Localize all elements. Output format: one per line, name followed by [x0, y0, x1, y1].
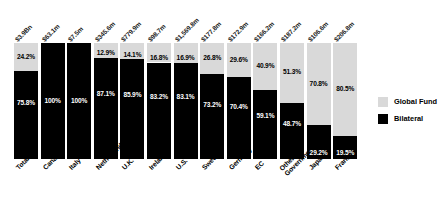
- bar-group: 16.8%83.2%: [147, 43, 171, 159]
- bar-segment-global-fund: 29.6%: [227, 43, 251, 77]
- bar-segment-label: 100%: [44, 98, 60, 105]
- legend-swatch-bilateral: [378, 114, 388, 124]
- bar-group: 12.9%87.1%: [94, 43, 118, 159]
- bar-segment-global-fund: 51.3%: [280, 43, 304, 103]
- bar-segment-bilateral: 87.1%: [94, 58, 118, 159]
- bar-segment-label: 12.9%: [97, 50, 115, 57]
- bar-segment-label: 73.2%: [203, 102, 221, 109]
- bar-segment-label: 16.9%: [177, 55, 195, 62]
- bar-group: 100%: [41, 43, 65, 159]
- bar-segment-label: 80.5%: [336, 86, 354, 93]
- bar-segment-label: 24.2%: [17, 54, 35, 61]
- bar-segment-label: 26.8%: [203, 55, 221, 62]
- bar-segment-bilateral: 83.1%: [174, 63, 198, 159]
- bar-value-label: $345.6m: [93, 20, 116, 43]
- bar-segment-global-fund: 16.9%: [174, 43, 198, 63]
- bar-segment-label: 83.2%: [150, 94, 168, 101]
- bar-value-label: $166.2m: [253, 20, 276, 43]
- bar-segment-label: 75.8%: [17, 100, 35, 107]
- bar-value-label: $172.9m: [226, 20, 249, 43]
- bar-segment-label: 70.8%: [310, 81, 328, 88]
- bar-group: 26.8%73.2%: [200, 43, 224, 159]
- bar-segment-label: 87.1%: [97, 91, 115, 98]
- bar-segment-bilateral: 75.8%: [14, 71, 38, 159]
- stacked-bar-chart: 24.2%75.8%$3.9BnTotal100%$63.1mCanada100…: [0, 0, 445, 220]
- bar-segment-label: 59.1%: [256, 113, 274, 120]
- bar-group: 70.8%29.2%: [307, 43, 331, 159]
- bar-segment-bilateral: 100%: [67, 43, 91, 159]
- bar-segment-global-fund: 26.8%: [200, 43, 224, 74]
- bar-segment-label: 16.8%: [150, 55, 168, 62]
- bar-value-label: $206.8m: [333, 20, 356, 43]
- bar-segment-bilateral: 85.9%: [120, 59, 144, 159]
- bar-segment-global-fund: 40.9%: [253, 43, 277, 90]
- bar-group: 14.1%85.9%: [120, 43, 144, 159]
- legend-label-global-fund: Global Fund: [394, 97, 437, 106]
- bar-segment-global-fund: 12.9%: [94, 43, 118, 58]
- bar-group: 24.2%75.8%: [14, 43, 38, 159]
- category-label: U.S.: [174, 157, 188, 171]
- bar-group: 80.5%19.5%: [333, 43, 357, 159]
- bar-segment-bilateral: 59.1%: [253, 90, 277, 159]
- bar-segment-global-fund: 70.8%: [307, 43, 331, 125]
- bar-value-label: $106.6m: [306, 20, 329, 43]
- bar-value-label: $1,569.8m: [173, 16, 200, 43]
- bar-group: 51.3%48.7%: [280, 43, 304, 159]
- bar-segment-label: 51.3%: [283, 69, 301, 76]
- bar-group: 40.9%59.1%: [253, 43, 277, 159]
- bar-value-label: $3.9Bn: [14, 23, 34, 43]
- bar-segment-label: 83.1%: [177, 94, 195, 101]
- category-label: EC: [254, 159, 265, 170]
- legend-label-bilateral: Bilateral: [394, 114, 423, 123]
- bar-value-label: $187.2m: [280, 20, 303, 43]
- bar-segment-label: 48.7%: [283, 121, 301, 128]
- bar-segment-global-fund: 80.5%: [333, 43, 357, 136]
- bar-segment-global-fund: 14.1%: [120, 43, 144, 59]
- legend-item-bilateral: Bilateral: [378, 112, 437, 125]
- bar-group: 100%: [67, 43, 91, 159]
- bar-segment-global-fund: 16.8%: [147, 43, 171, 62]
- bar-segment-bilateral: 83.2%: [147, 63, 171, 160]
- chart-legend: Global Fund Bilateral: [378, 95, 437, 129]
- bar-segment-bilateral: 100%: [41, 43, 65, 159]
- bar-segment-bilateral: 73.2%: [200, 74, 224, 159]
- bar-segment-label: 40.9%: [256, 63, 274, 70]
- legend-item-global-fund: Global Fund: [378, 95, 437, 108]
- bar-group: 16.9%83.1%: [174, 43, 198, 159]
- legend-swatch-global-fund: [378, 97, 388, 107]
- bar-segment-label: 29.6%: [230, 57, 248, 64]
- bar-segment-label: 70.4%: [230, 104, 248, 111]
- bar-value-label: $98.7m: [147, 23, 167, 43]
- bar-segment-label: 14.1%: [123, 52, 141, 59]
- bar-value-label: $177.8m: [200, 20, 223, 43]
- bar-value-label: $63.1m: [40, 23, 60, 43]
- bar-value-label: $779.9m: [120, 20, 143, 43]
- bar-value-label: $7.5m: [67, 25, 85, 43]
- bar-segment-label: 85.9%: [123, 92, 141, 99]
- bar-segment-global-fund: 24.2%: [14, 43, 38, 71]
- bar-group: 29.6%70.4%: [227, 43, 251, 159]
- bar-segment-label: 100%: [71, 98, 87, 105]
